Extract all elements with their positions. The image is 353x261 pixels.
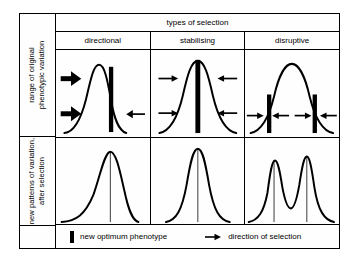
legend-label-spacer — [20, 225, 55, 248]
panel-row-new-patterns — [56, 138, 339, 225]
panel-stabilising-result — [150, 138, 245, 224]
row-label-column: range of original phenotypic variation n… — [20, 14, 56, 248]
row-label-new-patterns: new patterns of variation, after selecti… — [20, 136, 55, 225]
row-label-new-line2: after selection — [38, 138, 48, 224]
distribution-curve — [62, 152, 139, 222]
diagram-main-column: types of selection directional stabilisi… — [56, 14, 339, 248]
selection-diagram: range of original phenotypic variation n… — [19, 13, 340, 249]
right-arrow-icon — [205, 232, 222, 242]
panel-row-original — [56, 50, 339, 138]
column-header-directional: directional — [56, 32, 150, 49]
legend-label-optimum: new optimum phenotype — [80, 232, 167, 241]
selection-arrow-far-left — [247, 112, 264, 119]
panel-directional-original — [56, 50, 150, 137]
selection-arrow-right-lower — [217, 110, 237, 117]
distribution-curve — [249, 157, 334, 222]
selection-arrow-thick-upper — [61, 71, 82, 86]
row-label-original-line2: phenotypic variation — [38, 41, 48, 110]
legend: new optimum phenotype direction of selec… — [56, 225, 339, 248]
panel-directional-result — [56, 138, 150, 224]
panel-disruptive-original — [244, 50, 339, 137]
row-label-original-line1: range of original — [28, 47, 37, 103]
column-header-stabilising: stabilising — [150, 32, 245, 49]
legend-item-optimum: new optimum phenotype — [70, 231, 167, 243]
black-bar-icon — [70, 231, 74, 243]
legend-label-direction: direction of selection — [228, 232, 301, 241]
selection-arrow-right-upper — [217, 75, 237, 82]
column-header-disruptive: disruptive — [244, 32, 339, 49]
selection-arrow-left-upper — [158, 75, 178, 82]
selection-arrow-inner-right — [295, 112, 312, 119]
row-label-original-variation: range of original phenotypic variation — [20, 14, 55, 136]
figure-title: types of selection — [56, 14, 339, 32]
optimum-bar — [195, 60, 200, 133]
panel-disruptive-result — [244, 138, 339, 224]
legend-item-direction: direction of selection — [205, 232, 301, 242]
panel-stabilising-original — [150, 50, 245, 137]
selection-arrow-far-right — [320, 112, 337, 119]
column-headers: directional stabilising disruptive — [56, 32, 339, 50]
selection-arrow-inner-left — [273, 112, 290, 119]
selection-arrow-left-lower — [158, 110, 178, 117]
row-label-new-line1: new patterns of variation, — [28, 138, 37, 224]
selection-arrow-thin-right — [126, 110, 145, 118]
distribution-curve — [251, 64, 333, 133]
